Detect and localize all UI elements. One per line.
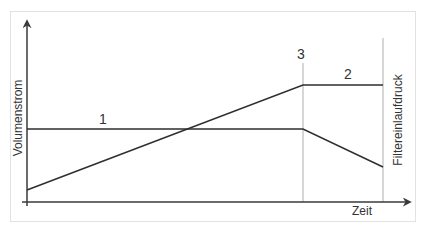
diagram-frame: [11, 12, 416, 222]
filtereinlaufdruck-label: Filtereinlaufdruck: [391, 73, 405, 165]
x-axis-label: Zeit: [352, 204, 373, 218]
curve-2-label: 2: [344, 66, 352, 82]
y-axis-label: Volumenstrom: [11, 80, 25, 157]
curve-1-label: 1: [99, 111, 107, 127]
diagram-canvas: 1 2 3 Zeit Volumenstrom Filtereinlaufdru…: [0, 0, 426, 232]
marker-3-label: 3: [297, 46, 305, 62]
